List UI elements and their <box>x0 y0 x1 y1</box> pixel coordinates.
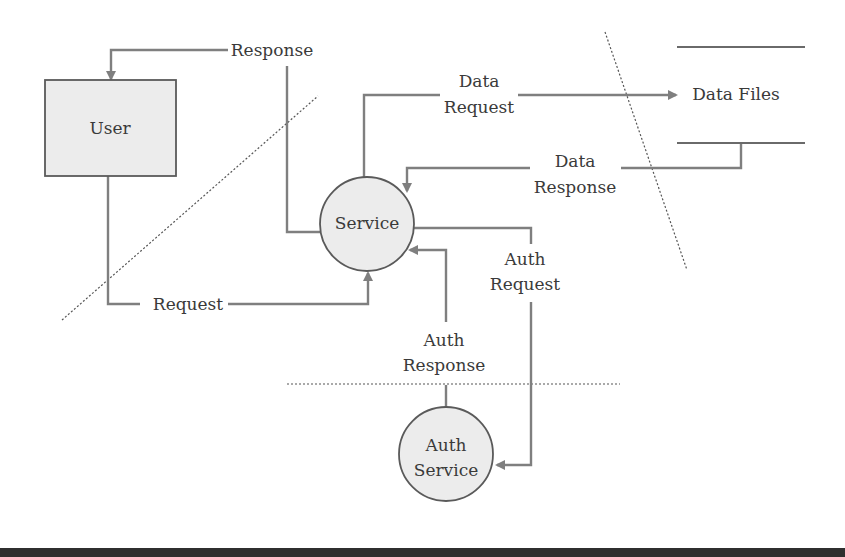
flow-label-auth-request-line1: Auth <box>503 249 545 269</box>
footer-rule <box>0 548 845 557</box>
node-data-files-label: Data Files <box>692 84 780 104</box>
flow-label-data-response-line1: Data <box>555 151 596 171</box>
flow-label-data-request-line1: Data <box>459 71 500 91</box>
node-auth-service-label-line2: Service <box>414 460 478 480</box>
node-auth-service: Auth Service <box>399 407 493 501</box>
flow-label-auth-request-line2: Request <box>490 274 560 294</box>
flow-label-data-response-line2: Response <box>534 177 616 197</box>
flow-label-request: Request <box>153 294 223 314</box>
node-user-label: User <box>89 118 131 138</box>
node-service: Service <box>320 177 414 271</box>
flow-label-response: Response <box>231 40 313 60</box>
data-flow-diagram: Response Request Data Request Data Respo… <box>0 0 845 557</box>
flow-label-auth-response-line2: Response <box>403 355 485 375</box>
flow-data-request: Data Request <box>364 71 676 177</box>
node-service-label: Service <box>335 213 399 233</box>
flow-label-data-request-line2: Request <box>444 97 514 117</box>
node-auth-service-label-line1: Auth <box>424 435 466 455</box>
node-user: User <box>45 80 176 176</box>
node-data-files: Data Files <box>677 47 805 143</box>
flow-label-auth-response-line1: Auth <box>422 330 464 350</box>
trust-boundary-data-store <box>605 32 687 270</box>
flow-data-response: Data Response <box>407 143 741 197</box>
